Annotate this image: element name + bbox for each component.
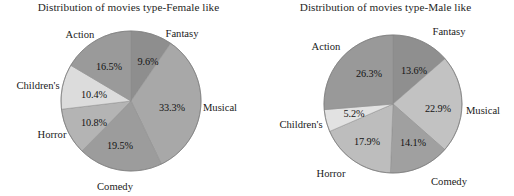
pie-value-label-musical: 33.3% (159, 102, 185, 113)
pie-chart-female: Distribution of movies type-Female like … (0, 0, 257, 196)
pie-value-label-horror: 17.9% (354, 136, 380, 147)
pie-canvas-male (257, 0, 514, 196)
pie-chart-male: Distribution of movies type-Male like 13… (257, 0, 514, 196)
pie-category-label-comedy: Comedy (97, 181, 133, 192)
pie-category-label-fantasy: Fantasy (433, 26, 466, 37)
pie-value-label-action: 26.3% (356, 68, 382, 79)
pie-value-label-children-s: 5.2% (343, 108, 364, 119)
pie-category-label-horror: Horror (317, 168, 346, 179)
pie-category-label-musical: Musical (203, 102, 237, 113)
pie-category-label-comedy: Comedy (431, 176, 467, 187)
pie-category-label-children-s: Children's (279, 119, 322, 130)
pie-value-label-action: 16.5% (96, 61, 122, 72)
pie-category-label-children-s: Children's (16, 80, 59, 91)
pie-category-label-musical: Musical (466, 105, 500, 116)
pie-value-label-fantasy: 13.6% (401, 65, 427, 76)
pie-svg-male (257, 0, 514, 196)
pie-category-label-horror: Horror (38, 129, 67, 140)
pie-category-label-action: Action (312, 41, 341, 52)
pie-category-label-fantasy: Fantasy (166, 28, 199, 39)
pie-svg-female (0, 0, 257, 196)
pie-canvas-female (0, 0, 257, 196)
pie-category-label-action: Action (66, 29, 95, 40)
pie-value-label-comedy: 19.5% (107, 140, 133, 151)
pie-value-label-children-s: 10.4% (81, 89, 107, 100)
pie-value-label-comedy: 14.1% (400, 137, 426, 148)
pie-value-label-musical: 22.9% (425, 103, 451, 114)
pie-value-label-fantasy: 9.6% (137, 56, 158, 67)
pie-value-label-horror: 10.8% (81, 117, 107, 128)
